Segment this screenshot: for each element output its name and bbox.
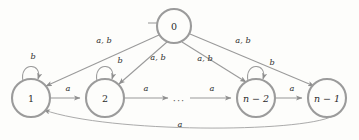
edge-label-0-to-1: a, b	[96, 35, 111, 45]
transition-n-minus-2-to-n-minus-1: a	[276, 83, 302, 98]
edge-label-0-to-2: a, b	[150, 52, 165, 62]
edge-label-n-minus-1-to-1: a	[178, 119, 183, 129]
self-loop-2: b	[97, 55, 123, 81]
transition-1-to-2: a	[51, 83, 80, 98]
edge-label-self-loop-2: b	[117, 55, 122, 65]
state-node-2[interactable]: 2	[86, 79, 124, 117]
state-node-n-minus-2[interactable]: n − 2	[237, 79, 275, 117]
state-label-0: 0	[171, 21, 177, 32]
self-loop-1: b	[23, 51, 39, 81]
state-node-1[interactable]: 1	[12, 79, 50, 117]
self-loop-n-minus-2: b	[248, 57, 275, 81]
state-label-n-minus-2: n − 2	[243, 93, 269, 104]
transition-0-to-2: a, b	[119, 42, 167, 84]
edge-label-self-loop-n-minus-2: b	[269, 57, 274, 67]
chain-ellipsis: ···	[173, 95, 186, 106]
edge-label-1-to-2: a	[66, 83, 71, 93]
automaton-svg: a, b a, b a, b a, b b b b	[0, 0, 359, 140]
edge-label-0-to-n-minus-2: a, b	[197, 53, 212, 63]
transition-0-to-n-minus-2: a, b	[182, 42, 246, 82]
state-node-0[interactable]: 0	[157, 9, 191, 43]
edge-label-n-minus-2-to-n-minus-1: a	[290, 83, 295, 93]
automaton-figure: a, b a, b a, b a, b b b b	[0, 0, 359, 140]
state-label-1: 1	[28, 93, 34, 104]
state-node-n-minus-1[interactable]: n − 1	[308, 79, 346, 117]
state-label-2: 2	[102, 93, 108, 104]
edge-label-2-to-dots: a	[144, 83, 149, 93]
state-label-n-minus-1: n − 1	[314, 93, 340, 104]
transition-2-to-dots: a	[125, 83, 168, 98]
edge-label-0-to-n-minus-1: a, b	[235, 35, 250, 45]
transition-n-minus-1-to-1: a	[44, 110, 333, 129]
transition-dots-to-n-minus-2: a	[190, 83, 231, 98]
edge-label-dots-to-n-minus-2: a	[210, 83, 215, 93]
edge-label-self-loop-1: b	[30, 51, 35, 61]
